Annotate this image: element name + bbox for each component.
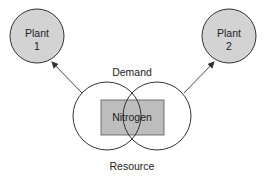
plant-2-node: Plant 2 bbox=[202, 9, 256, 63]
plant-2-label-line1: Plant bbox=[217, 27, 241, 39]
diagram-canvas: Plant 1 Plant 2 Demand Nitrogen Resource bbox=[0, 0, 269, 181]
plant-1-label-line2: 1 bbox=[34, 40, 40, 52]
arrow-to-plant-2 bbox=[184, 62, 214, 93]
plant-1-node: Plant 1 bbox=[10, 9, 64, 63]
nitrogen-label: Nitrogen bbox=[112, 111, 152, 123]
plant-1-label-line1: Plant bbox=[25, 27, 49, 39]
demand-label: Demand bbox=[112, 66, 152, 78]
arrow-to-plant-1 bbox=[52, 62, 82, 93]
resource-label: Resource bbox=[110, 160, 155, 172]
plant-2-label-line2: 2 bbox=[226, 40, 232, 52]
diagram: Plant 1 Plant 2 Demand Nitrogen Resource bbox=[0, 0, 269, 181]
